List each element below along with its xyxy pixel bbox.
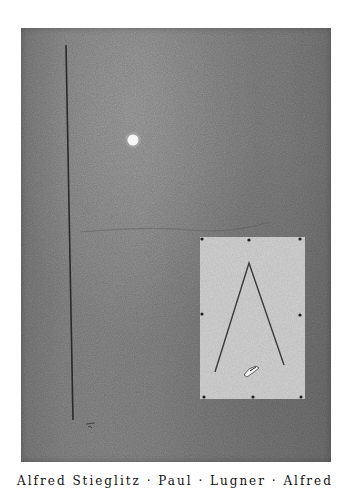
pin-icon	[298, 313, 301, 316]
pin-icon	[202, 395, 205, 398]
caption: Alfred Stieglitz · Paul · Lugner · Alfre…	[0, 474, 350, 488]
pin-icon	[247, 238, 250, 241]
moon-glow	[125, 132, 141, 148]
pin-icon	[299, 395, 302, 398]
pin-icon	[200, 312, 203, 315]
paper-texture	[200, 237, 305, 399]
pin-icon	[298, 237, 301, 240]
pin-icon	[251, 395, 254, 398]
pin-icon	[200, 237, 203, 240]
